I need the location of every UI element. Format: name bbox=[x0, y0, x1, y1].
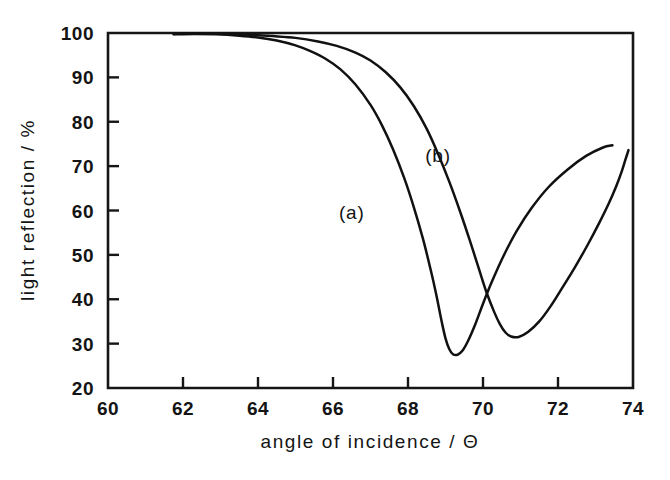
curve-a bbox=[174, 34, 613, 355]
x-tick-label-68: 68 bbox=[397, 398, 419, 419]
y-tick-label-90: 90 bbox=[72, 67, 94, 88]
x-axis-ticks bbox=[183, 377, 558, 388]
figure-container: 2030405060708090100 6062646668707274 (a)… bbox=[0, 0, 670, 480]
plot-frame bbox=[108, 33, 633, 388]
y-axis-ticks bbox=[108, 77, 119, 343]
y-tick-label-60: 60 bbox=[72, 201, 94, 222]
x-tick-label-74: 74 bbox=[622, 398, 644, 419]
x-tick-label-60: 60 bbox=[97, 398, 119, 419]
y-axis-title: light reflection / % bbox=[17, 119, 38, 301]
x-tick-label-62: 62 bbox=[172, 398, 194, 419]
x-tick-label-70: 70 bbox=[472, 398, 494, 419]
x-tick-label-64: 64 bbox=[247, 398, 269, 419]
reflection-chart: 2030405060708090100 6062646668707274 (a)… bbox=[0, 0, 670, 480]
data-series-group bbox=[174, 33, 629, 355]
y-tick-label-80: 80 bbox=[72, 112, 94, 133]
series-annotation-b: (b) bbox=[425, 145, 451, 166]
y-tick-label-30: 30 bbox=[72, 334, 94, 355]
series-annotation-a: (a) bbox=[339, 202, 365, 223]
y-tick-label-20: 20 bbox=[72, 378, 94, 399]
y-tick-label-70: 70 bbox=[72, 156, 94, 177]
curve-b bbox=[174, 33, 629, 337]
y-tick-label-100: 100 bbox=[61, 23, 94, 44]
y-axis-tick-labels: 2030405060708090100 bbox=[61, 23, 94, 399]
y-tick-label-40: 40 bbox=[72, 289, 94, 310]
x-axis-title: angle of incidence / Θ bbox=[261, 431, 480, 452]
x-tick-label-66: 66 bbox=[322, 398, 344, 419]
x-axis-tick-labels: 6062646668707274 bbox=[97, 398, 644, 419]
x-tick-label-72: 72 bbox=[547, 398, 569, 419]
y-tick-label-50: 50 bbox=[72, 245, 94, 266]
